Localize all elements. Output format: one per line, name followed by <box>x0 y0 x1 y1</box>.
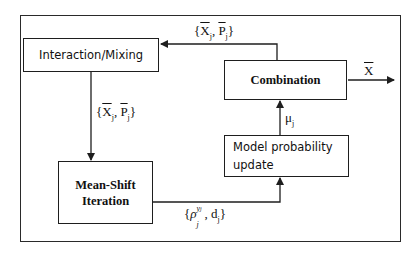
node-label-line1: Mean-Shift <box>75 177 135 193</box>
edge-combination-to-mixing <box>161 44 277 60</box>
edge-label-likelihood: {ρyjj, dj} <box>184 206 226 224</box>
node-mean-shift-iteration: Mean-Shift Iteration <box>58 161 153 224</box>
edge-meanshift-to-modelprob <box>153 178 280 202</box>
diagram-canvas: Interaction/Mixing Mean-Shift Iteration … <box>0 0 418 255</box>
node-label-line2: update <box>233 156 333 174</box>
node-interaction-mixing: Interaction/Mixing <box>23 38 159 72</box>
node-model-probability-update: Model probability update <box>224 135 349 177</box>
node-label: Combination <box>250 72 320 88</box>
edge-label-mu: μj <box>285 110 294 128</box>
output-label: X <box>364 63 373 79</box>
node-label-line2: Iteration <box>75 193 135 209</box>
node-label-line1: Model probability <box>233 138 333 156</box>
node-combination: Combination <box>224 60 347 100</box>
edge-label-mixed: {Xj, Pj} <box>96 104 136 122</box>
node-label: Interaction/Mixing <box>39 48 143 62</box>
edge-label-feedback: {Xj, Pj} <box>194 23 234 41</box>
